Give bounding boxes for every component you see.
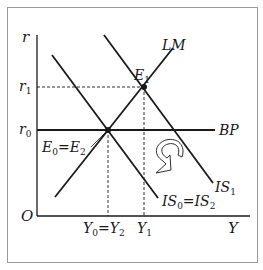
- y-axis-label: r: [22, 28, 30, 46]
- origin-label: O: [21, 207, 33, 225]
- y0-y2-tick-label: Y0=Y2: [83, 220, 125, 238]
- islm-bp-diagram: r Y O r1 r0 Y0=Y2 Y1 LM BP IS1 IS0=IS2 E…: [0, 0, 263, 270]
- is0-is2-label: IS0=IS2: [161, 193, 215, 211]
- lm-label: LM: [161, 37, 186, 53]
- e0-e2-point: [105, 127, 111, 133]
- e0-e2-label: E0=E2: [41, 139, 86, 157]
- bp-label: BP: [218, 122, 239, 138]
